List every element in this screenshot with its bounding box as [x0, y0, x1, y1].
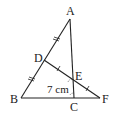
triangle-diagram: A D E B C F 7 cm: [0, 0, 118, 124]
segment-AC: [70, 19, 74, 98]
label-D: D: [34, 51, 43, 65]
label-E: E: [75, 69, 82, 83]
label-B: B: [10, 92, 18, 106]
angle-mark-E: [68, 79, 72, 82]
label-A: A: [66, 4, 75, 18]
label-F: F: [102, 92, 109, 106]
length-label-7cm: 7 cm: [47, 83, 69, 95]
label-C: C: [70, 100, 78, 114]
